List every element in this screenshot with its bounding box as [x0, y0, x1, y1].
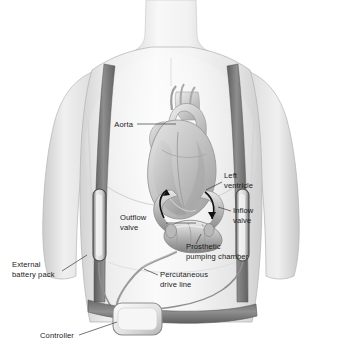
label-driveline-line-1: Percutaneous: [160, 270, 208, 279]
label-inflow-valve-line-2: valve: [233, 216, 251, 225]
label-battery-line-1: External: [12, 260, 41, 269]
neck: [128, 0, 214, 54]
label-left-ventricle-line-2: ventricle: [224, 181, 253, 190]
label-pump-line-2: pumping chamber: [186, 252, 249, 261]
outflow-valve-collar: [166, 224, 177, 238]
label-controller-line-1: Controller: [40, 331, 74, 340]
label-battery-line-2: battery pack: [12, 270, 55, 279]
label-outflow-valve-line-1: Outflow: [120, 213, 147, 222]
label-left-ventricle-line-1: Left: [224, 171, 238, 180]
controller-box: [113, 303, 162, 335]
battery-right: [236, 189, 249, 261]
vad-illustration: Aorta Left ventricle Inflow valve Outflo…: [0, 0, 341, 355]
battery-left: [93, 189, 106, 261]
label-inflow-valve-line-1: Inflow: [233, 206, 254, 215]
label-driveline-line-2: drive line: [160, 280, 191, 289]
label-pump-line-1: Prosthetic: [186, 242, 221, 251]
label-outflow-valve-line-2: valve: [120, 223, 138, 232]
label-aorta-line-1: Aorta: [114, 120, 133, 129]
leader-controller: [79, 322, 117, 335]
label-controller: Controller: [40, 322, 117, 340]
inflow-valve-collar: [204, 224, 214, 237]
